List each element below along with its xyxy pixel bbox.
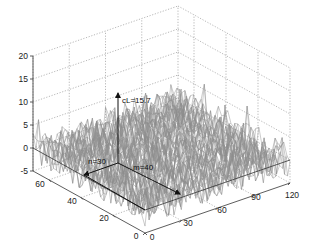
- y-tick: 20: [99, 213, 109, 223]
- y-tick: 0: [134, 231, 139, 241]
- y-tick: 40: [67, 196, 77, 206]
- x-tick: 30: [183, 218, 193, 228]
- z-tick: 20: [19, 51, 29, 61]
- m-label: m=40: [133, 163, 154, 172]
- y-tick: 60: [35, 179, 45, 189]
- x-tick: 90: [251, 192, 261, 202]
- z-tick: 15: [19, 74, 29, 84]
- z-tick: 0: [23, 143, 28, 153]
- x-tick: 0: [150, 232, 155, 242]
- n-label: n=30: [88, 157, 107, 166]
- x-tick: 120: [285, 190, 299, 200]
- z-tick-labels: 20 15 10 5 0 -5: [19, 51, 29, 176]
- peak-label: cL=15.7: [122, 96, 151, 105]
- z-tick: 5: [23, 120, 28, 130]
- z-tick: -5: [20, 166, 28, 176]
- surface-plot: cL=15.7 n=30 m=40 20 15 10 5 0 -5 0 20 4…: [0, 0, 314, 251]
- z-tick: 10: [19, 97, 29, 107]
- x-tick: 60: [217, 205, 227, 215]
